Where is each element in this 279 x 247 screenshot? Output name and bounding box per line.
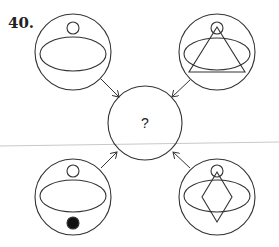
ellipse-shape (40, 37, 106, 71)
figure-top-right (179, 14, 255, 90)
question-mark: ? (141, 115, 149, 131)
figure-bottom-left (35, 159, 111, 235)
figure-top-left (35, 14, 111, 90)
filled-dot-icon (67, 217, 79, 229)
small-circle-icon (67, 22, 79, 34)
arrow-top-left (101, 79, 119, 97)
figure-center: ? (108, 86, 182, 160)
figure-bottom-right (179, 159, 255, 235)
puzzle-diagram: ? (0, 0, 279, 247)
arrow-bottom-left (101, 152, 117, 168)
scan-rule-line (0, 142, 279, 146)
arrow-top-right (172, 80, 190, 97)
arrow-bottom-right (173, 152, 190, 168)
